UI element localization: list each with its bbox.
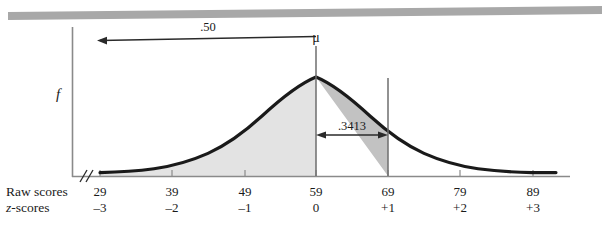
raw-score-value: 89 xyxy=(527,184,540,199)
z-score-value: –1 xyxy=(238,200,252,215)
figure-canvas: f μ .50 .3413 Raw scores z-scores 29 39 … xyxy=(0,0,610,225)
raw-scores-row-label: Raw scores xyxy=(6,184,68,199)
raw-score-value: 29 xyxy=(94,184,107,199)
z-score-value: –3 xyxy=(93,200,107,215)
raw-score-value: 69 xyxy=(382,184,395,199)
mean-symbol-label: μ xyxy=(312,30,320,45)
z-score-value: +2 xyxy=(453,200,467,215)
half-area-arrow xyxy=(97,37,316,45)
shaded-region-left-of-mean xyxy=(100,77,316,176)
z-score-value: +3 xyxy=(526,200,540,215)
one-sd-area-label: .3413 xyxy=(338,119,366,133)
normal-distribution-figure: f μ .50 .3413 Raw scores z-scores 29 39 … xyxy=(0,0,610,225)
z-scores-row-label: z-scores xyxy=(5,200,50,215)
half-area-label: .50 xyxy=(200,20,216,34)
top-gray-bar xyxy=(8,6,602,20)
raw-score-value: 59 xyxy=(310,184,323,199)
z-score-value: +1 xyxy=(381,200,395,215)
y-axis-label: f xyxy=(56,86,62,102)
raw-score-value: 39 xyxy=(166,184,179,199)
raw-score-value: 79 xyxy=(454,184,467,199)
raw-score-value: 49 xyxy=(239,184,252,199)
z-score-value: –2 xyxy=(165,200,179,215)
z-scores-suffix: -scores xyxy=(11,200,49,215)
z-score-value: 0 xyxy=(313,200,320,215)
